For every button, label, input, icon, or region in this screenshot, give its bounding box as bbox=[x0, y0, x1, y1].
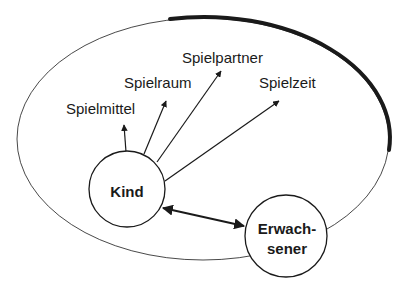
node-kind-label: Kind bbox=[110, 183, 143, 200]
label-spielraum: Spielraum bbox=[124, 74, 192, 91]
node-erwachsener-label-line1: Erwach- bbox=[258, 220, 316, 237]
label-spielzeit: Spielzeit bbox=[259, 74, 317, 91]
concept-diagram: Kind Erwach- sener Spielmittel Spielraum… bbox=[0, 0, 403, 289]
arrow-spielraum bbox=[144, 101, 166, 154]
label-spielpartner: Spielpartner bbox=[182, 49, 263, 66]
label-spielmittel: Spielmittel bbox=[66, 100, 135, 117]
arrow-spielmittel bbox=[124, 125, 126, 152]
arrow-kind-erwachsener bbox=[163, 208, 244, 226]
arrow-spielzeit bbox=[165, 101, 279, 181]
node-erwachsener-label-line2: sener bbox=[267, 240, 307, 257]
